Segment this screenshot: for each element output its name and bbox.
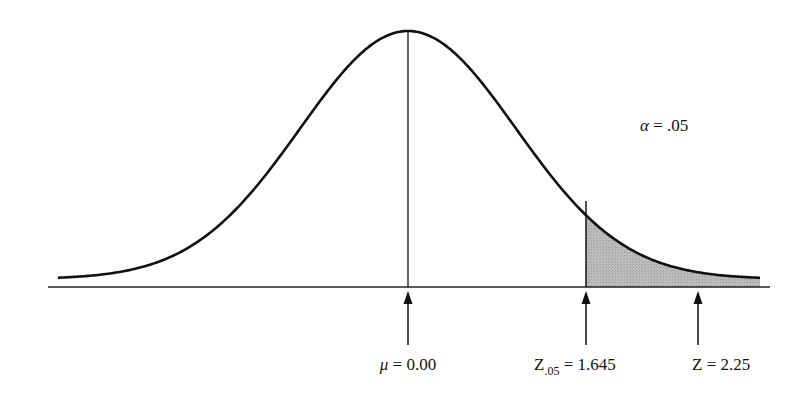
test-statistic-label: Z = 2.25 bbox=[692, 355, 750, 374]
mean-label: μ = 0.00 bbox=[379, 355, 436, 374]
normal-curve bbox=[58, 31, 760, 278]
test-statistic-arrow bbox=[694, 291, 703, 345]
alpha-label: α = .05 bbox=[640, 116, 688, 135]
critical-value-arrow bbox=[582, 291, 591, 345]
critical-value-label: Z.05 = 1.645 bbox=[534, 355, 616, 378]
normal-curve-diagram: α = .05 μ = 0.00 Z.05 = 1.645 Z = 2.25 bbox=[0, 0, 807, 407]
mean-arrow bbox=[404, 291, 413, 345]
